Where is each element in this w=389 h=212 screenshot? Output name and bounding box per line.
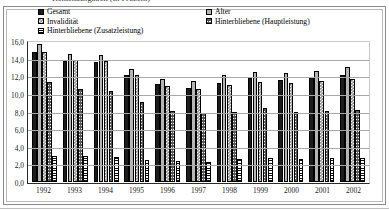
- legend-label-zusatzleistung: Hinterbliebene (Zusatzleistung): [47, 26, 143, 36]
- gridline: [28, 148, 369, 149]
- legend-swatch-invaliditaet-icon: [38, 18, 44, 24]
- bar[interactable]: [145, 160, 150, 182]
- bar[interactable]: [294, 112, 299, 183]
- bar[interactable]: [186, 88, 191, 182]
- y-axis-tick-label: 12,0: [11, 73, 24, 82]
- bar[interactable]: [176, 161, 181, 182]
- bar[interactable]: [68, 54, 73, 182]
- bottom-divider: [0, 208, 389, 209]
- y-axis-tick-label: 0,0: [15, 179, 24, 188]
- bar[interactable]: [289, 83, 294, 182]
- legend-item-hinterbliebene-hauptleistung[interactable]: Hinterbliebene (Hauptleistung): [206, 17, 310, 27]
- x-axis-tick-label: 1992: [28, 186, 59, 195]
- x-axis-tick-label: 2001: [307, 186, 338, 195]
- gridline: [28, 77, 369, 78]
- bar[interactable]: [258, 82, 263, 182]
- bar[interactable]: [299, 159, 304, 182]
- bar[interactable]: [355, 110, 360, 182]
- legend-swatch-gesamt-icon: [38, 9, 44, 15]
- bar[interactable]: [263, 108, 268, 182]
- bar[interactable]: [99, 55, 104, 182]
- gridline: [28, 95, 369, 96]
- legend-item-gesamt[interactable]: Gesamt: [38, 7, 143, 17]
- x-axis-tick-label: 2000: [276, 186, 307, 195]
- legend-swatch-hauptleistung-icon: [206, 18, 212, 24]
- bar[interactable]: [114, 157, 119, 182]
- bar[interactable]: [196, 89, 201, 182]
- y-axis-tick-label: 14,0: [11, 55, 24, 64]
- gridline: [28, 113, 369, 114]
- y-axis-tick-label: 6,0: [15, 126, 24, 135]
- gridline: [28, 60, 369, 61]
- y-axis-labels: 16,014,012,010,08,06,04,02,00,0: [0, 41, 26, 184]
- bar[interactable]: [217, 83, 222, 182]
- bar[interactable]: [165, 86, 170, 182]
- bar[interactable]: [227, 85, 232, 182]
- legend-swatch-alter-icon: [206, 9, 212, 15]
- y-axis-tick-label: 16,0: [11, 38, 24, 47]
- x-axis-tick-label: 1993: [59, 186, 90, 195]
- legend-label-invaliditaet: Invalidität: [47, 17, 78, 27]
- bar[interactable]: [78, 89, 83, 182]
- x-axis-labels: 1992199319941995199619971998199920002001…: [28, 186, 369, 195]
- bar[interactable]: [32, 52, 37, 182]
- legend-item-invaliditaet[interactable]: Invalidität: [38, 17, 143, 27]
- legend-item-alter[interactable]: Alter: [206, 7, 310, 17]
- x-axis-tick-label: 1996: [152, 186, 183, 195]
- x-axis-tick-label: 1995: [121, 186, 152, 195]
- legend-label-gesamt: Gesamt: [47, 7, 70, 17]
- bar[interactable]: [94, 62, 99, 182]
- bar[interactable]: [47, 82, 52, 182]
- bar[interactable]: [170, 111, 175, 182]
- y-axis-tick-label: 4,0: [15, 143, 24, 152]
- x-axis-tick-label: 1999: [245, 186, 276, 195]
- bar[interactable]: [42, 52, 47, 182]
- bar[interactable]: [140, 102, 145, 182]
- legend-column-left: Gesamt Invalidität Hinterbliebene (Zusat…: [38, 7, 143, 36]
- plot-area: [27, 41, 370, 184]
- y-axis-tick-label: 10,0: [11, 90, 24, 99]
- gridline: [28, 130, 369, 131]
- bar[interactable]: [155, 84, 160, 182]
- bar[interactable]: [360, 158, 365, 182]
- x-axis-tick-label: 1994: [90, 186, 121, 195]
- bar[interactable]: [325, 111, 330, 182]
- bar[interactable]: [237, 159, 242, 182]
- y-axis-tick-label: 2,0: [15, 161, 24, 170]
- bar[interactable]: [109, 91, 114, 182]
- y-axis-tick-label: 8,0: [15, 108, 24, 117]
- chart-legend: Gesamt Invalidität Hinterbliebene (Zusat…: [38, 7, 378, 37]
- legend-label-alter: Alter: [215, 7, 231, 17]
- x-axis-tick-label: 2002: [338, 186, 369, 195]
- bar[interactable]: [330, 158, 335, 182]
- bar[interactable]: [104, 61, 109, 182]
- legend-column-right: Alter Hinterbliebene (Hauptleistung): [206, 7, 310, 26]
- gridline: [28, 165, 369, 166]
- x-axis-tick-label: 1997: [183, 186, 214, 195]
- legend-swatch-zusatzleistung-icon: [38, 28, 44, 34]
- chart-figure: Rentenausgaben (in Prozent) Gesamt Inval…: [0, 0, 389, 212]
- legend-item-hinterbliebene-zusatzleistung[interactable]: Hinterbliebene (Zusatzleistung): [38, 26, 143, 36]
- page-title: Rentenausgaben (in Prozent): [52, 0, 150, 3]
- bar[interactable]: [83, 156, 88, 182]
- bar[interactable]: [268, 158, 273, 182]
- bar[interactable]: [63, 61, 68, 182]
- bar[interactable]: [52, 156, 57, 182]
- legend-label-hauptleistung: Hinterbliebene (Hauptleistung): [215, 17, 310, 27]
- x-axis-tick-label: 1998: [214, 186, 245, 195]
